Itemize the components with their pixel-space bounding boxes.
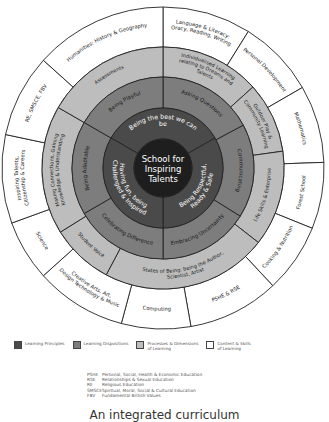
legend-label: Processes & Dimensions of Learning bbox=[147, 341, 198, 351]
legend: Learning Principles Learning Disposition… bbox=[14, 341, 329, 351]
abbr-value: Fundamental British Values bbox=[102, 393, 161, 398]
curriculum-wheel: Language & Literacy:Oracy, Reading, Writ… bbox=[0, 0, 329, 340]
legend-item-content: Content & Skills of Learning bbox=[206, 341, 250, 351]
abbreviations-list: PSHEPersonal, Social, Health & Economic … bbox=[87, 372, 202, 398]
legend-label: Content & Skills of Learning bbox=[217, 341, 250, 351]
legend-item-principles: Learning Principles bbox=[14, 341, 65, 351]
swatch-dispositions bbox=[73, 341, 81, 349]
center-hub: School for Inspiring Talents bbox=[134, 139, 192, 197]
abbr-key: FBV bbox=[87, 393, 102, 398]
legend-item-processes: Processes & Dimensions of Learning bbox=[136, 341, 198, 351]
legend-item-dispositions: Learning Dispositions bbox=[73, 341, 129, 351]
center-line-3: Talents bbox=[147, 174, 178, 184]
center-line-1: School for bbox=[142, 154, 185, 164]
swatch-principles bbox=[14, 341, 22, 349]
legend-label: Learning Principles bbox=[25, 341, 65, 346]
swatch-content bbox=[206, 341, 214, 349]
caption: An integrated curriculum bbox=[0, 408, 329, 422]
swatch-processes bbox=[136, 341, 144, 349]
abbr-row: FBVFundamental British Values bbox=[87, 393, 202, 398]
legend-label: Learning Dispositions bbox=[84, 341, 129, 346]
center-line-2: Inspiring bbox=[145, 164, 182, 174]
